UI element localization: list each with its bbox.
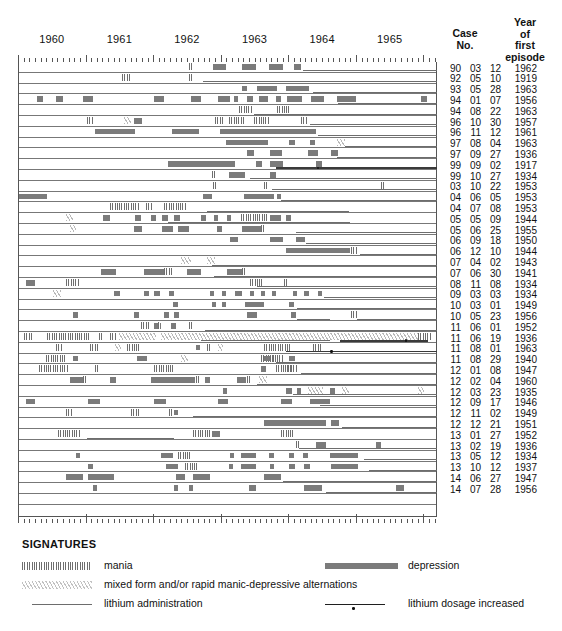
- axis-tick-month: [46, 519, 47, 523]
- case-table-row: 1310121937: [441, 462, 562, 473]
- case-number-part2: 06: [465, 473, 481, 484]
- axis-tick-month: [108, 519, 109, 523]
- axis-tick-month: [215, 519, 216, 523]
- depression-episode-bar: [229, 464, 233, 470]
- case-header-line2: No.: [441, 40, 489, 52]
- lithium-administration-line: [320, 405, 437, 406]
- case-table-row: 1302191936: [441, 441, 562, 452]
- depression-episode-bar: [316, 161, 322, 167]
- legend-row-mania-depression: mania depression: [22, 559, 492, 578]
- case-number-part1: 07: [445, 257, 461, 268]
- depression-episode-bar: [337, 96, 356, 102]
- depression-episode-bar: [276, 96, 281, 102]
- lithium-administration-line: [326, 492, 437, 493]
- case-table-row: 0903031934: [441, 289, 562, 300]
- year-of-first-episode: 1934: [509, 451, 537, 462]
- depression-episode-bar: [234, 96, 238, 102]
- depression-episode-bar: [270, 150, 281, 156]
- depression-episode-bar: [294, 64, 301, 70]
- timeline-row: [19, 397, 436, 408]
- lithium-administration-line: [254, 114, 295, 115]
- case-number-part1: 99: [445, 160, 461, 171]
- year-of-first-episode: 1963: [509, 84, 537, 95]
- timeline-row: [19, 462, 436, 473]
- mixed-form-bar: [119, 333, 156, 340]
- year-of-first-episode: 1947: [509, 365, 537, 376]
- mania-episode-bar: [131, 409, 139, 416]
- depression-episode-bar: [261, 366, 266, 372]
- timeline-row: [19, 181, 436, 192]
- axis-tick-month: [35, 519, 36, 523]
- mania-episode-bar: [39, 365, 67, 372]
- lithium-administration-line: [337, 157, 437, 158]
- axis-tick-month: [57, 519, 58, 523]
- mixed-form-bar: [124, 117, 131, 124]
- mania-episode-bar: [351, 311, 358, 318]
- depression-episode-bar: [286, 86, 309, 92]
- mixed-form-bar: [53, 290, 61, 297]
- axis-tick-month: [142, 519, 143, 523]
- x-axis-label-1965: 1965: [377, 33, 402, 45]
- case-number-part3: 23: [485, 311, 501, 322]
- case-table-row: 9708041963: [441, 138, 562, 149]
- mania-episode-bar: [87, 117, 94, 124]
- axis-tick-month: [102, 519, 103, 523]
- mania-episode-bar: [264, 182, 269, 189]
- axis-tick-month: [266, 519, 267, 523]
- depression-episode-bar: [250, 291, 254, 297]
- case-number-part3: 23: [485, 387, 501, 398]
- timeline-row: [19, 386, 436, 397]
- case-number-part1: 90: [445, 63, 461, 74]
- mania-episode-bar: [99, 333, 103, 340]
- timeline-row: [19, 138, 436, 149]
- axis-tick-month: [328, 519, 329, 523]
- lithium-administration-line-increased: [340, 340, 428, 342]
- case-table-row: 0407081953: [441, 203, 562, 214]
- year-of-first-episode: 1949: [509, 300, 537, 311]
- lithium-administration-line: [364, 459, 437, 460]
- year-of-first-episode: 1934: [509, 171, 537, 182]
- timeline-row: [19, 472, 436, 483]
- depression-episode-bar: [242, 86, 247, 92]
- axis-tick-month: [114, 519, 115, 523]
- mania-episode-bar: [250, 279, 261, 286]
- year-of-first-episode: 1960: [509, 376, 537, 387]
- mixed-form-bar: [207, 257, 215, 264]
- timeline-row: [19, 440, 436, 451]
- axis-tick-month: [148, 519, 149, 523]
- case-number-part2: 08: [465, 106, 481, 117]
- year-of-first-episode: 1955: [509, 225, 537, 236]
- mania-episode-bar: [254, 117, 269, 124]
- axis-tick-month: [80, 519, 81, 523]
- axis-tick-month: [277, 519, 278, 523]
- case-number-part3: 19: [485, 441, 501, 452]
- lithium-administration-line: [207, 211, 349, 212]
- year-of-first-episode: 1946: [509, 397, 537, 408]
- year-of-first-episode: 1956: [509, 95, 537, 106]
- axis-tick-month: [24, 519, 25, 523]
- case-number-part3: 27: [485, 473, 501, 484]
- year-of-first-episode: 1962: [509, 63, 537, 74]
- case-number-part3: 29: [485, 354, 501, 365]
- case-number-part1: 12: [445, 419, 461, 430]
- mania-episode-bar: [178, 452, 192, 459]
- case-number-part2: 10: [465, 462, 481, 473]
- depression-episode-bar: [217, 226, 222, 232]
- depression-episode-bar: [286, 215, 291, 221]
- lithium-administration-line: [281, 200, 437, 201]
- depression-episode-bar: [201, 215, 205, 221]
- timeline-row: [19, 321, 436, 332]
- case-number-part2: 06: [465, 333, 481, 344]
- case-number-part1: 09: [445, 289, 461, 300]
- axis-tick-month: [300, 519, 301, 523]
- axis-tick-month: [125, 519, 126, 523]
- lithium-administration-line: [345, 146, 437, 147]
- case-number-part3: 02: [485, 257, 501, 268]
- axis-tick-month: [204, 519, 205, 523]
- axis-tick-month: [164, 519, 165, 523]
- lithium-administration-line: [296, 232, 437, 233]
- year-of-first-episode: 1961: [509, 127, 537, 138]
- mania-episode-bar: [241, 214, 268, 221]
- case-number-part1: 14: [445, 484, 461, 495]
- mania-episode-bar: [90, 344, 98, 351]
